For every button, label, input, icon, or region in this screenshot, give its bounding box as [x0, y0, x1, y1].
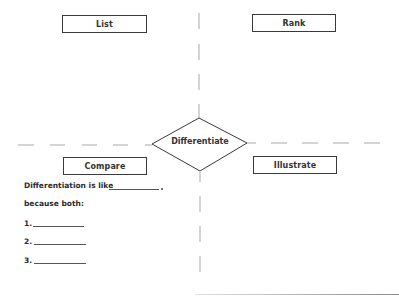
- because-both-label: because both:: [24, 199, 84, 208]
- compare-box: Compare: [63, 157, 147, 175]
- item-number-3: 3.: [24, 256, 32, 265]
- comparison-sentence: Differentiation is like: [24, 181, 113, 190]
- comparison-blank[interactable]: [109, 189, 159, 190]
- item-blank-1[interactable]: [33, 226, 84, 227]
- quadrant-divider-lines: [0, 0, 399, 296]
- item-number-1: 1.: [24, 219, 32, 228]
- item-number-2: 2.: [24, 237, 32, 246]
- item-blank-3[interactable]: [34, 263, 86, 264]
- page-bottom-edge: [195, 294, 399, 295]
- sentence-period: [161, 188, 163, 190]
- center-label: Differentiate: [160, 137, 240, 146]
- list-box: List: [62, 15, 147, 33]
- illustrate-box: Illustrate: [253, 156, 337, 174]
- graphic-organizer: Differentiate List Rank Compare Illustra…: [0, 0, 399, 296]
- item-blank-2[interactable]: [34, 244, 86, 245]
- rank-box: Rank: [252, 14, 336, 32]
